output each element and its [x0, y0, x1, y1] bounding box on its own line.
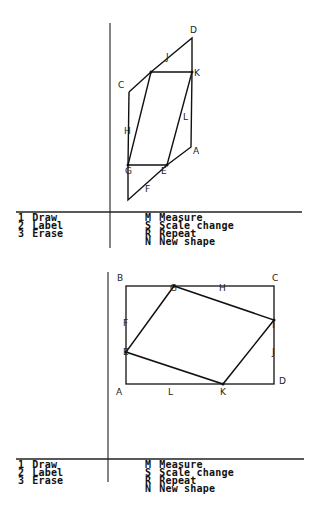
vertex-label-k: K [220, 387, 227, 397]
vertex-label-b: B [117, 273, 123, 283]
vertex-label-d: D [279, 376, 286, 386]
menu-item-erase[interactable]: 3 Erase [18, 477, 63, 485]
vertex-label-a: A [116, 387, 123, 397]
menu-left-1: 1 Draw 2 Label 3 Erase [18, 214, 63, 238]
vertex-label-h: H [219, 283, 226, 293]
vertex-label-l: L [183, 112, 188, 122]
drawing-panel-1: D J K C L H A G E F 1 Draw 2 Label 3 Era… [0, 0, 321, 260]
inner-parallelogram [126, 286, 274, 384]
vertex-label-j: J [271, 347, 275, 357]
menu-left-2: 1 Draw 2 Label 3 Erase [18, 461, 63, 485]
vertex-label-h: H [124, 126, 131, 136]
menu-item-new-shape[interactable]: N New shape [145, 485, 234, 493]
vertex-label-k: K [194, 68, 201, 78]
vertex-label-g: G [125, 166, 132, 176]
vertex-label-d: D [190, 25, 197, 35]
vertex-label-a: A [193, 146, 200, 156]
vertex-label-c: C [272, 273, 278, 283]
vertex-label-c: C [118, 80, 124, 90]
vertex-label-e: E [161, 166, 167, 176]
vertex-label-f: F [123, 318, 128, 328]
menu-right-1: M Measure S Scale change R Repeat N New … [145, 214, 234, 246]
outer-rectangle [126, 286, 274, 384]
drawing-panel-2: B G H C F I E J D A L K 1 Draw 2 Label 3… [0, 260, 321, 520]
vertex-label-j: J [165, 52, 169, 62]
menu-item-erase[interactable]: 3 Erase [18, 230, 63, 238]
vertex-label-e: E [123, 347, 129, 357]
menu-right-2: M Measure S Scale change R Repeat N New … [145, 461, 234, 493]
vertex-label-g: G [170, 283, 177, 293]
vertex-label-i: I [272, 320, 275, 330]
menu-item-new-shape[interactable]: N New shape [145, 238, 234, 246]
vertex-label-l: L [168, 387, 173, 397]
vertex-label-f: F [145, 184, 150, 194]
